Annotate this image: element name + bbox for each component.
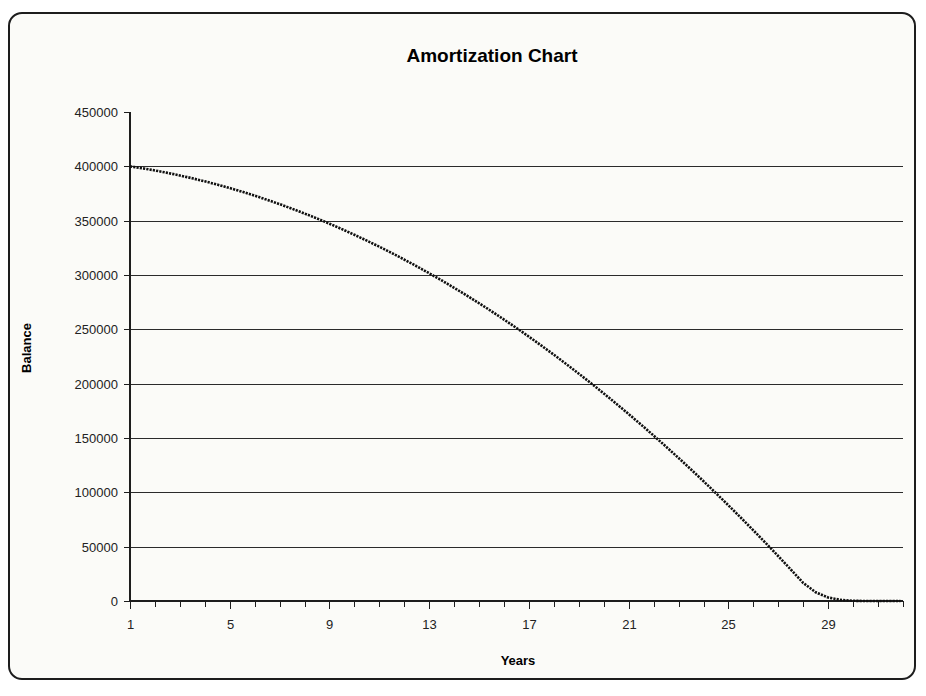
y-tick-label: 350000	[75, 214, 118, 229]
x-tick-label: 13	[422, 617, 436, 632]
y-tick-label: 150000	[75, 431, 118, 446]
y-tick-label: 300000	[75, 268, 118, 283]
x-tick-label: 17	[522, 617, 536, 632]
y-tick-label: 400000	[75, 159, 118, 174]
y-tick-label: 450000	[75, 105, 118, 120]
x-tick-label: 21	[622, 617, 636, 632]
balance-series-line	[130, 166, 901, 601]
amortization-chart: Amortization Chart Balance Years 0500001…	[0, 0, 926, 696]
x-tick-label: 25	[721, 617, 735, 632]
y-tick-label: 100000	[75, 485, 118, 500]
y-tick-label: 0	[111, 594, 118, 609]
x-tick-label: 9	[326, 617, 333, 632]
y-tick-group	[124, 113, 130, 602]
chart-title: Amortization Chart	[407, 45, 579, 66]
y-tick-label-group: 0500001000001500002000002500003000003500…	[75, 105, 118, 609]
y-axis-title: Balance	[19, 323, 34, 373]
y-tick-label: 250000	[75, 322, 118, 337]
x-axis-title: Years	[501, 653, 536, 668]
y-tick-label: 50000	[82, 540, 118, 555]
y-tick-label: 200000	[75, 377, 118, 392]
x-tick-label: 5	[227, 617, 234, 632]
x-tick-label: 29	[821, 617, 835, 632]
x-tick-label: 1	[127, 617, 134, 632]
x-tick-label-group: 1591317212529	[127, 617, 836, 632]
gridlines-group	[130, 167, 903, 602]
x-tick-group	[131, 601, 904, 609]
